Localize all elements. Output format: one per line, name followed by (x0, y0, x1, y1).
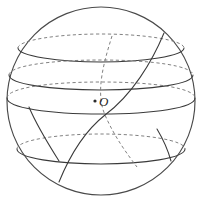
center-point-dot (93, 99, 96, 102)
center-point-label: O (99, 94, 109, 109)
lower-latitude-back-arc (17, 134, 185, 149)
sphere-diagram-canvas: O (0, 0, 206, 205)
visible-oblique-great-circle (59, 33, 164, 182)
lower-latitude-front-arc (17, 149, 185, 164)
sphere-figure: O (0, 0, 206, 205)
upper-latitude-back-arc (18, 34, 184, 48)
lower-right-short-arc (157, 129, 171, 161)
lower-left-meridian-arc (29, 107, 59, 161)
